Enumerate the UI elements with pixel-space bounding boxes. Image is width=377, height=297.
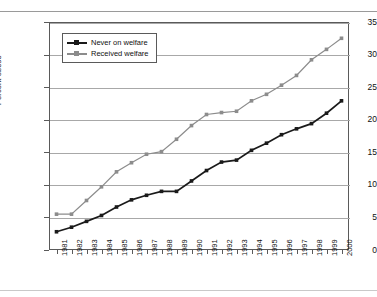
y-tick-label: 10 bbox=[355, 180, 377, 189]
series-marker bbox=[265, 93, 269, 97]
x-tick-label: 1983 bbox=[90, 239, 99, 256]
x-tick-mark bbox=[297, 250, 298, 254]
y-tick-label: 30 bbox=[355, 50, 377, 59]
x-tick-mark bbox=[327, 250, 328, 254]
x-tick-mark bbox=[132, 250, 133, 254]
y-tick-label: 20 bbox=[355, 115, 377, 124]
x-tick-mark bbox=[312, 250, 313, 254]
x-tick-mark bbox=[237, 250, 238, 254]
series-marker bbox=[280, 133, 284, 137]
series-marker bbox=[145, 152, 149, 156]
series-marker bbox=[220, 111, 224, 115]
legend-item-label: Never on welfare bbox=[91, 37, 148, 48]
series-marker bbox=[220, 160, 224, 164]
x-tick-mark bbox=[192, 250, 193, 254]
legend-marker-icon bbox=[67, 37, 87, 48]
series-marker bbox=[100, 185, 104, 189]
legend-item: Never on welfare bbox=[67, 37, 149, 48]
series-marker bbox=[340, 36, 344, 40]
series-marker bbox=[85, 199, 89, 203]
x-tick-label: 1987 bbox=[150, 239, 159, 256]
x-tick-label: 1989 bbox=[180, 239, 189, 256]
x-tick-mark bbox=[267, 250, 268, 254]
x-tick-label: 2000 bbox=[345, 239, 354, 256]
series-marker bbox=[205, 113, 209, 117]
x-tick-mark bbox=[162, 250, 163, 254]
series-marker bbox=[340, 99, 344, 103]
series-marker bbox=[85, 220, 89, 224]
x-tick-mark bbox=[222, 250, 223, 254]
x-tick-label: 1981 bbox=[60, 239, 69, 256]
x-tick-label: 1982 bbox=[75, 239, 84, 256]
x-tick-mark bbox=[147, 250, 148, 254]
series-marker bbox=[145, 193, 149, 197]
series-marker bbox=[55, 212, 59, 216]
bottom-divider-rule bbox=[0, 290, 377, 291]
x-tick-mark bbox=[342, 250, 343, 254]
series-marker bbox=[130, 198, 134, 202]
x-tick-mark bbox=[282, 250, 283, 254]
series-marker bbox=[250, 149, 254, 153]
series-marker bbox=[325, 111, 329, 115]
series-marker bbox=[160, 150, 164, 154]
y-tick-label: 0 bbox=[355, 246, 377, 255]
top-divider-rule bbox=[0, 11, 377, 12]
x-tick-label: 1997 bbox=[300, 239, 309, 256]
x-tick-label: 1985 bbox=[120, 239, 129, 256]
series-marker bbox=[190, 124, 194, 128]
series-marker bbox=[205, 169, 209, 173]
series-marker bbox=[115, 170, 119, 174]
series-marker bbox=[160, 190, 164, 194]
series-marker bbox=[295, 74, 299, 78]
y-tick-label: 25 bbox=[355, 83, 377, 92]
x-tick-label: 1986 bbox=[135, 239, 144, 256]
y-tick-label: 35 bbox=[355, 18, 377, 27]
x-tick-mark bbox=[117, 250, 118, 254]
x-tick-label: 1990 bbox=[195, 239, 204, 256]
y-tick-mark bbox=[44, 250, 49, 251]
x-tick-mark bbox=[72, 250, 73, 254]
series-marker bbox=[295, 127, 299, 131]
series-marker bbox=[100, 214, 104, 218]
y-axis-title: Percent obese bbox=[0, 55, 3, 105]
x-tick-label: 1988 bbox=[165, 239, 174, 256]
series-marker bbox=[325, 48, 329, 52]
x-tick-mark bbox=[87, 250, 88, 254]
series-line bbox=[57, 38, 342, 214]
series-marker bbox=[235, 158, 239, 162]
x-tick-label: 1993 bbox=[240, 239, 249, 256]
series-marker bbox=[310, 58, 314, 62]
x-tick-mark bbox=[252, 250, 253, 254]
chart-legend: Never on welfare Received welfare bbox=[62, 33, 157, 63]
series-marker bbox=[310, 122, 314, 126]
series-marker bbox=[190, 179, 194, 183]
x-tick-mark bbox=[102, 250, 103, 254]
x-tick-label: 1996 bbox=[285, 239, 294, 256]
series-marker bbox=[70, 225, 74, 229]
x-tick-mark bbox=[177, 250, 178, 254]
series-marker bbox=[70, 212, 74, 216]
x-tick-label: 1992 bbox=[225, 239, 234, 256]
legend-marker-icon bbox=[67, 48, 87, 59]
x-tick-mark bbox=[207, 250, 208, 254]
series-marker bbox=[250, 99, 254, 103]
series-marker bbox=[55, 230, 59, 234]
chart-figure: Percent obese 05101520253035 19811982198… bbox=[0, 0, 377, 297]
series-marker bbox=[115, 205, 119, 209]
series-marker bbox=[175, 190, 179, 194]
series-marker bbox=[235, 109, 239, 113]
x-tick-label: 1984 bbox=[105, 239, 114, 256]
x-tick-label: 1994 bbox=[255, 239, 264, 256]
series-marker bbox=[175, 137, 179, 141]
cropped-header-text bbox=[6, 0, 366, 10]
x-tick-label: 1995 bbox=[270, 239, 279, 256]
series-marker bbox=[265, 141, 269, 145]
y-tick-label: 15 bbox=[355, 148, 377, 157]
series-marker bbox=[130, 161, 134, 165]
x-tick-label: 1999 bbox=[330, 239, 339, 256]
legend-item: Received welfare bbox=[67, 48, 149, 59]
y-tick-label: 5 bbox=[355, 213, 377, 222]
series-marker bbox=[280, 83, 284, 87]
x-tick-label: 1998 bbox=[315, 239, 324, 256]
x-tick-label: 1991 bbox=[210, 239, 219, 256]
